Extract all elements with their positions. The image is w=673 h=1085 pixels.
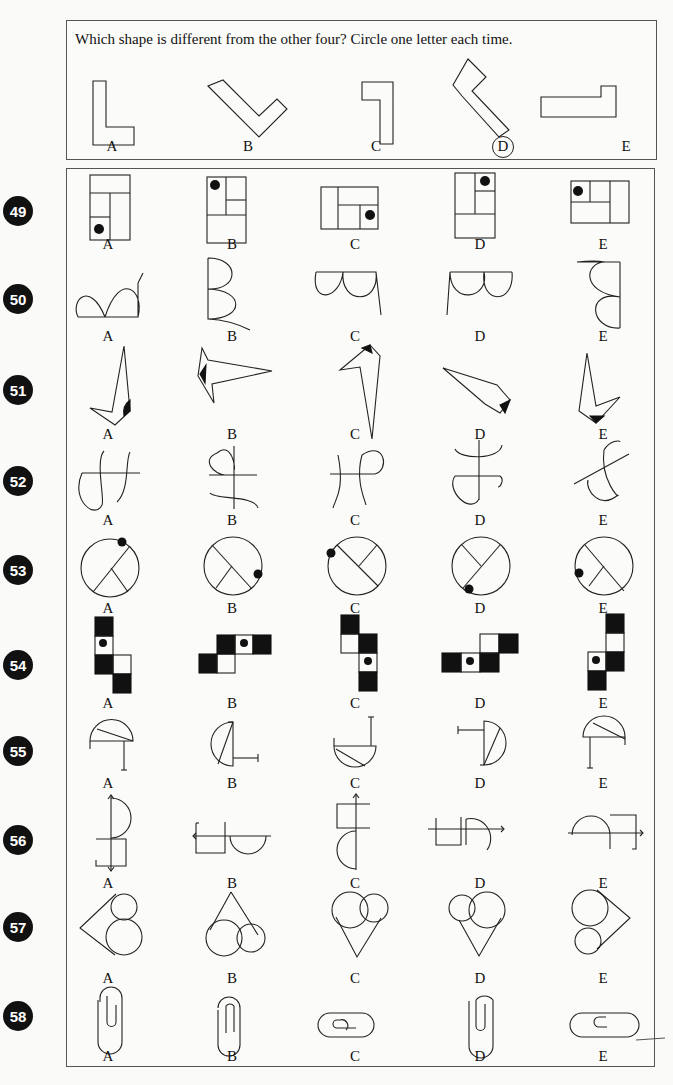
option-b[interactable]: B <box>227 328 237 345</box>
q58-figures <box>98 987 665 1058</box>
option-b[interactable]: B <box>227 970 237 987</box>
option-d[interactable]: D <box>475 695 486 712</box>
option-a[interactable]: A <box>103 236 114 253</box>
option-a[interactable]: A <box>103 1048 114 1065</box>
q49-figures <box>90 173 629 243</box>
option-d[interactable]: D <box>475 426 486 443</box>
option-e[interactable]: E <box>598 695 607 712</box>
option-e[interactable]: E <box>598 775 607 792</box>
q53-figures <box>81 537 633 597</box>
option-a[interactable]: A <box>103 328 114 345</box>
option-e[interactable]: E <box>598 512 607 529</box>
q55-figures <box>90 716 625 770</box>
option-a[interactable]: A <box>103 775 114 792</box>
option-d[interactable]: D <box>475 512 486 529</box>
option-a[interactable]: A <box>103 426 114 443</box>
option-c[interactable]: C <box>350 695 360 712</box>
option-d[interactable]: D <box>475 1048 486 1065</box>
option-e[interactable]: E <box>598 600 607 617</box>
option-b[interactable]: B <box>227 512 237 529</box>
option-a[interactable]: A <box>103 512 114 529</box>
option-b[interactable]: B <box>227 695 237 712</box>
option-c[interactable]: C <box>350 970 360 987</box>
option-b[interactable]: B <box>227 775 237 792</box>
q50-figures <box>76 258 620 330</box>
option-a[interactable]: A <box>103 695 114 712</box>
option-a[interactable]: A <box>103 970 114 987</box>
option-c[interactable]: C <box>350 775 360 792</box>
option-c[interactable]: C <box>350 236 360 253</box>
option-e[interactable]: E <box>598 328 607 345</box>
q52-figures <box>79 440 629 510</box>
option-c[interactable]: C <box>350 1048 360 1065</box>
option-d[interactable]: D <box>475 328 486 345</box>
option-d[interactable]: D <box>475 600 486 617</box>
q57-figures <box>80 890 630 957</box>
option-c[interactable]: C <box>350 875 360 892</box>
option-c[interactable]: C <box>350 426 360 443</box>
option-e[interactable]: E <box>598 426 607 443</box>
option-c[interactable]: C <box>350 600 360 617</box>
option-a[interactable]: A <box>103 600 114 617</box>
option-c[interactable]: C <box>350 512 360 529</box>
option-d[interactable]: D <box>475 875 486 892</box>
question-figures <box>0 0 673 1085</box>
option-b[interactable]: B <box>227 1048 237 1065</box>
q51-figures <box>90 345 620 439</box>
option-d[interactable]: D <box>475 970 486 987</box>
option-b[interactable]: B <box>227 600 237 617</box>
option-e[interactable]: E <box>598 875 607 892</box>
option-b[interactable]: B <box>227 426 237 443</box>
option-c[interactable]: C <box>350 328 360 345</box>
option-e[interactable]: E <box>598 236 607 253</box>
option-d[interactable]: D <box>475 775 486 792</box>
option-b[interactable]: B <box>227 236 237 253</box>
option-a[interactable]: A <box>103 875 114 892</box>
option-e[interactable]: E <box>598 970 607 987</box>
option-e[interactable]: E <box>598 1048 607 1065</box>
option-b[interactable]: B <box>227 875 237 892</box>
q54-figures <box>95 614 624 693</box>
option-d[interactable]: D <box>475 236 486 253</box>
q56-figures <box>96 794 643 871</box>
